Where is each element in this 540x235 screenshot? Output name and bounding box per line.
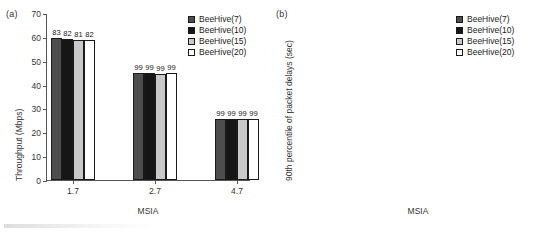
bar-value-label: 82 <box>85 31 93 39</box>
y-axis-tick <box>43 38 47 39</box>
panel-b-tag: (b) <box>276 9 288 19</box>
legend-label: BeeHive(10) <box>199 26 246 35</box>
y-axis-tick-label: 60 <box>32 34 41 43</box>
bar <box>237 119 248 180</box>
legend-swatch-icon <box>456 27 463 34</box>
bar <box>215 119 226 180</box>
legend-item: BeeHive(20) <box>456 47 514 58</box>
y-axis-tick-label: 10 <box>32 153 41 162</box>
bar-value-label: 99 <box>227 110 235 118</box>
figure-two-bar-charts: (a) Throughput (Mbps) 0102030405060701.7… <box>0 0 540 235</box>
legend-item: BeeHive(7) <box>188 14 246 25</box>
legend-item: BeeHive(15) <box>188 36 246 47</box>
bar-value-label: 82 <box>63 30 71 38</box>
bar <box>84 40 95 180</box>
bar <box>155 74 166 180</box>
y-axis-tick <box>43 86 47 87</box>
legend-item: BeeHive(7) <box>456 14 514 25</box>
legend-item: BeeHive(10) <box>456 25 514 36</box>
panel-a-tag: (a) <box>6 9 18 19</box>
bar <box>73 40 84 180</box>
x-axis-tick-label: 2.7 <box>149 187 161 196</box>
panel-b-x-axis-title: MSIA <box>408 206 429 216</box>
bar-value-label: 99 <box>249 110 257 118</box>
legend-label: BeeHive(20) <box>467 48 514 57</box>
legend-swatch-icon <box>188 38 195 45</box>
bar-value-label: 99 <box>145 64 153 72</box>
legend-label: BeeHive(15) <box>467 37 514 46</box>
scan-artifact <box>4 224 154 228</box>
x-axis-tick <box>73 180 74 184</box>
panel-b: (b) 90th percentile of packet delays (se… <box>270 0 540 235</box>
bar <box>51 38 62 180</box>
legend-swatch-icon <box>188 16 195 23</box>
bar-value-label: 99 <box>156 65 164 73</box>
bar-value-label: 99 <box>216 110 224 118</box>
bar <box>144 73 155 180</box>
x-axis-tick <box>237 180 238 184</box>
y-axis-tick-label: 20 <box>32 129 41 138</box>
panel-a-y-axis-title: Throughput (Mbps) <box>14 109 24 181</box>
legend-swatch-icon <box>456 16 463 23</box>
y-axis-tick <box>43 62 47 63</box>
panel-a-legend: BeeHive(7)BeeHive(10)BeeHive(15)BeeHive(… <box>188 14 246 58</box>
y-axis-tick <box>43 133 47 134</box>
y-axis-tick <box>43 157 47 158</box>
bar-value-label: 99 <box>134 64 142 72</box>
y-axis-tick-label: 30 <box>32 105 41 114</box>
panel-b-y-axis-title: 90th percentile of packet delays (sec) <box>284 40 294 181</box>
y-axis-tick <box>43 181 47 182</box>
bar <box>166 73 177 180</box>
legend-label: BeeHive(15) <box>199 37 246 46</box>
bar-value-label: 83 <box>52 29 60 37</box>
legend-swatch-icon <box>188 27 195 34</box>
legend-label: BeeHive(20) <box>199 48 246 57</box>
legend-swatch-icon <box>456 49 463 56</box>
bar <box>248 119 259 180</box>
panel-b-legend: BeeHive(7)BeeHive(10)BeeHive(15)BeeHive(… <box>456 14 514 58</box>
panel-a-x-axis-title: MSIA <box>138 206 159 216</box>
panel-a: (a) Throughput (Mbps) 0102030405060701.7… <box>0 0 270 235</box>
y-axis-tick-label: 70 <box>32 10 41 19</box>
bar <box>62 39 73 180</box>
y-axis-tick-label: 50 <box>32 57 41 66</box>
x-axis-tick-label: 1.7 <box>67 187 79 196</box>
bar-value-label: 99 <box>167 64 175 72</box>
legend-label: BeeHive(7) <box>467 15 510 24</box>
bar <box>133 73 144 180</box>
bar-value-label: 81 <box>74 31 82 39</box>
legend-swatch-icon <box>188 49 195 56</box>
legend-item: BeeHive(20) <box>188 47 246 58</box>
x-axis-tick-label: 4.7 <box>231 187 243 196</box>
x-axis-tick <box>155 180 156 184</box>
bar-value-label: 99 <box>238 110 246 118</box>
legend-item: BeeHive(10) <box>188 25 246 36</box>
bar <box>226 119 237 180</box>
y-axis-tick <box>43 109 47 110</box>
y-axis-tick-label: 0 <box>36 177 41 186</box>
legend-swatch-icon <box>456 38 463 45</box>
legend-label: BeeHive(7) <box>199 15 242 24</box>
y-axis-tick <box>43 14 47 15</box>
legend-label: BeeHive(10) <box>467 26 514 35</box>
legend-item: BeeHive(15) <box>456 36 514 47</box>
y-axis-tick-label: 40 <box>32 81 41 90</box>
